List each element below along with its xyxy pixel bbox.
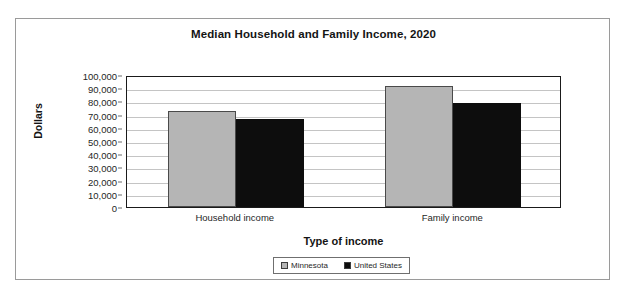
legend-swatch-icon (281, 262, 288, 269)
y-axis-tick-mark (118, 89, 122, 90)
y-axis-tick-mark (118, 181, 122, 182)
bar-minnesota-household-income (168, 111, 236, 207)
legend-swatch-icon (344, 262, 351, 269)
y-axis-tick-mark (118, 142, 122, 143)
y-axis-tick-label: 90,000 (88, 84, 117, 95)
y-axis-tick-label: 40,000 (88, 150, 117, 161)
y-axis-tick-label: 20,000 (88, 176, 117, 187)
gridline (127, 90, 560, 91)
x-axis-category-label: Family income (422, 212, 483, 223)
legend-entry-minnesota: Minnesota (281, 261, 328, 270)
bar-united-states-household-income (236, 119, 304, 207)
y-axis-tick-label: 30,000 (88, 163, 117, 174)
y-axis-tick-label: 80,000 (88, 97, 117, 108)
legend-label: Minnesota (291, 261, 328, 270)
y-axis-tick-label: 50,000 (88, 137, 117, 148)
bar-minnesota-family-income (385, 86, 453, 207)
y-axis-tick-label: 60,000 (88, 123, 117, 134)
y-axis-tick-mark (118, 168, 122, 169)
legend-entry-united-states: United States (344, 261, 402, 270)
y-axis-tick-mark (118, 102, 122, 103)
y-axis-tick-mark (118, 76, 122, 77)
chart-title: Median Household and Family Income, 2020 (16, 28, 611, 40)
legend-label: United States (354, 261, 402, 270)
x-axis-title: Type of income (126, 235, 561, 247)
y-axis-tick-label: 100,000 (83, 71, 117, 82)
y-axis-tick-mark (118, 115, 122, 116)
y-axis-tick-label: 0 (112, 203, 117, 214)
y-axis-tick-mark (118, 208, 122, 209)
chart-legend: MinnesotaUnited States (273, 257, 410, 274)
y-axis-tick-labels: 010,00020,00030,00040,00050,00060,00070,… (56, 76, 122, 208)
y-axis-tick-mark (118, 128, 122, 129)
plot-area (126, 76, 561, 208)
x-axis-category-label: Household income (195, 212, 274, 223)
chart-figure: Median Household and Family Income, 2020… (15, 18, 610, 280)
y-axis-tick-mark (118, 194, 122, 195)
y-axis-tick-label: 10,000 (88, 189, 117, 200)
bar-united-states-family-income (453, 103, 521, 207)
y-axis-tick-mark (118, 155, 122, 156)
y-axis-tick-label: 70,000 (88, 110, 117, 121)
y-axis-title: Dollars (32, 76, 44, 166)
